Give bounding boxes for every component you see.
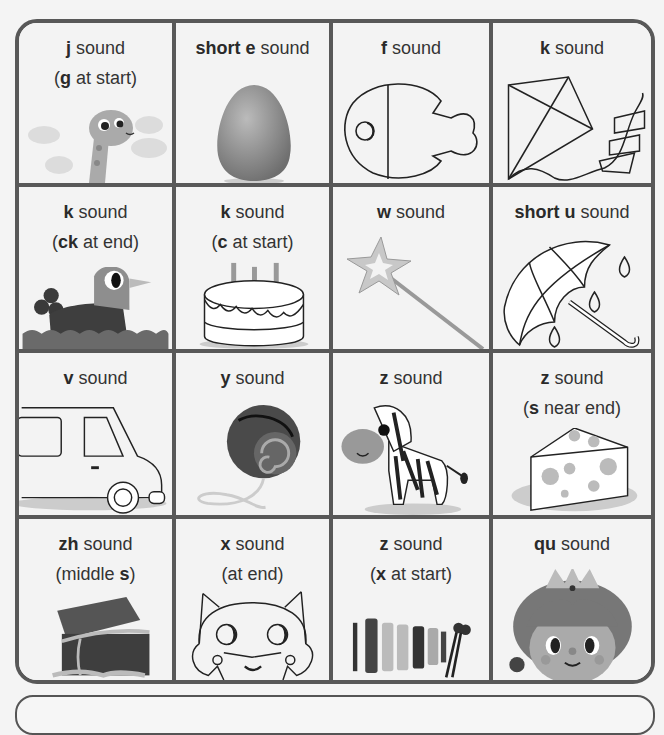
- giraffe-icon: [19, 103, 172, 183]
- card-label: x sound (at end): [176, 529, 329, 589]
- sound-letters: qu: [534, 534, 556, 554]
- card-label: z sound (s near end): [493, 363, 651, 423]
- sub-bold: x: [376, 564, 386, 584]
- card-label: j sound (g at start): [19, 33, 172, 93]
- card-cheese: z sound (s near end): [493, 353, 651, 519]
- card-duck: k sound (ck at end): [19, 187, 176, 353]
- card-label: k sound: [493, 33, 651, 63]
- card-label: w sound: [333, 197, 489, 227]
- sub-text: at start): [228, 232, 294, 252]
- sub-bold: s: [529, 398, 539, 418]
- card-giraffe: j sound (g at start): [19, 23, 176, 187]
- sub-bold: c: [217, 232, 227, 252]
- sound-letters: k: [63, 202, 73, 222]
- sound-letters: short u: [514, 202, 575, 222]
- card-treasure-chest: zh sound (middle s): [19, 519, 176, 680]
- card-label: k sound (c at start): [176, 197, 329, 257]
- zebra-icon: [333, 403, 489, 515]
- card-queen: qu sound: [493, 519, 651, 680]
- card-umbrella: short u sound: [493, 187, 651, 353]
- umbrella-icon: [493, 237, 651, 349]
- sub-text: at start): [71, 68, 137, 88]
- card-label: short u sound: [493, 197, 651, 227]
- card-van: v sound: [19, 353, 176, 519]
- card-fish: f sound: [333, 23, 493, 187]
- card-egg: short e sound: [176, 23, 333, 187]
- card-kite: k sound: [493, 23, 651, 187]
- cake-icon: [176, 255, 329, 349]
- sound-letters: k: [540, 38, 550, 58]
- sound-word: sound: [230, 368, 284, 388]
- sub-text: (middle: [55, 564, 119, 584]
- sound-word: sound: [549, 368, 603, 388]
- card-label: k sound (ck at end): [19, 197, 172, 257]
- card-yoyo: y sound: [176, 353, 333, 519]
- kite-icon: [493, 73, 651, 183]
- sound-word: sound: [255, 38, 309, 58]
- sound-word: sound: [71, 38, 125, 58]
- sub-text: ): [130, 564, 136, 584]
- sub-bold: ck: [58, 232, 78, 252]
- sound-letters: zh: [58, 534, 78, 554]
- phonics-picture-grid: j sound (g at start) short e sound: [15, 19, 655, 684]
- sound-letters: x: [220, 534, 230, 554]
- sub-text: at end): [78, 232, 139, 252]
- answer-box: [15, 695, 655, 735]
- cheese-icon: [493, 428, 651, 515]
- sub-text: near end): [539, 398, 621, 418]
- duck-icon: [19, 267, 172, 349]
- sound-word: sound: [556, 534, 610, 554]
- sound-word: sound: [230, 534, 284, 554]
- yoyo-icon: [176, 403, 329, 515]
- sound-word: sound: [78, 534, 132, 554]
- sound-word: sound: [388, 368, 442, 388]
- sub-text: at start): [386, 564, 452, 584]
- card-label: v sound: [19, 363, 172, 393]
- sound-word: sound: [391, 202, 445, 222]
- card-label: z sound: [333, 363, 489, 393]
- wand-icon: [333, 237, 489, 349]
- card-label: z sound (x at start): [333, 529, 489, 589]
- sound-word: sound: [73, 202, 127, 222]
- card-xylophone: z sound (x at start): [333, 519, 493, 680]
- card-zebra: z sound: [333, 353, 493, 519]
- card-wand: w sound: [333, 187, 493, 353]
- xylophone-icon: [333, 614, 489, 680]
- sound-word: sound: [230, 202, 284, 222]
- card-cake: k sound (c at start): [176, 187, 333, 353]
- sound-word: sound: [575, 202, 629, 222]
- card-label: qu sound: [493, 529, 651, 559]
- sound-word: sound: [73, 368, 127, 388]
- queen-icon: [493, 569, 651, 680]
- sub-bold: g: [60, 68, 71, 88]
- sub-bold: s: [120, 564, 130, 584]
- sound-letters: v: [63, 368, 73, 388]
- sub-text: (at end): [221, 564, 283, 584]
- sound-letters: short e: [195, 38, 255, 58]
- card-fox: x sound (at end): [176, 519, 333, 680]
- sound-letters: y: [220, 368, 230, 388]
- fish-icon: [333, 73, 489, 183]
- sound-letters: k: [220, 202, 230, 222]
- van-icon: [19, 403, 172, 515]
- sound-word: sound: [387, 38, 441, 58]
- sound-word: sound: [388, 534, 442, 554]
- fox-icon: [176, 589, 329, 680]
- sound-word: sound: [550, 38, 604, 58]
- sound-letters: w: [377, 202, 391, 222]
- treasure-chest-icon: [19, 597, 172, 680]
- card-label: zh sound (middle s): [19, 529, 172, 589]
- card-label: y sound: [176, 363, 329, 393]
- card-label: short e sound: [176, 33, 329, 63]
- card-label: f sound: [333, 33, 489, 63]
- egg-icon: [176, 73, 329, 183]
